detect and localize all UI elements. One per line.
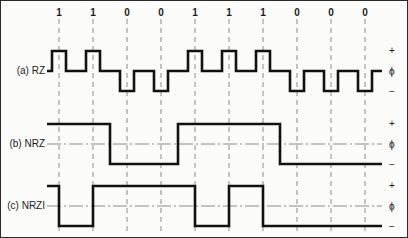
level-label-plus: +: [389, 118, 395, 129]
nrz-row: (b) NRZ + ϕ −: [9, 118, 395, 170]
row-label-nrz: (b) NRZ: [9, 138, 45, 149]
level-label-minus: −: [389, 86, 395, 97]
bit-label: 0: [158, 7, 164, 18]
level-label-minus: −: [389, 159, 395, 170]
bit-label: 0: [328, 7, 334, 18]
level-label-zero: ϕ: [389, 201, 395, 212]
bit-label: 0: [362, 7, 368, 18]
nrzi-row: (c) NRZI + ϕ −: [7, 180, 395, 232]
row-label-nrzi: (c) NRZI: [7, 200, 45, 211]
level-label-zero: ϕ: [389, 66, 395, 77]
bit-label: 1: [56, 7, 62, 18]
bit-gridlines: [59, 19, 365, 233]
level-label-plus: +: [389, 180, 395, 191]
rz-waveform: [47, 51, 382, 91]
bit-label: 1: [192, 7, 198, 18]
level-label-minus: −: [389, 221, 395, 232]
bit-label: 1: [90, 7, 96, 18]
bit-label: 0: [124, 7, 130, 18]
bit-label: 1: [260, 7, 266, 18]
bit-label: 0: [294, 7, 300, 18]
waveform-figure: 1 1 0 0 1 1 1 0 0 0 (a) RZ + ϕ − (b) NRZ…: [0, 0, 408, 238]
bit-label-row: 1 1 0 0 1 1 1 0 0 0: [56, 7, 368, 18]
rz-row: (a) RZ + ϕ −: [17, 45, 395, 97]
level-label-plus: +: [389, 45, 395, 56]
row-label-rz: (a) RZ: [17, 65, 45, 76]
bit-label: 1: [226, 7, 232, 18]
level-label-zero: ϕ: [389, 139, 395, 150]
waveform-canvas: 1 1 0 0 1 1 1 0 0 0 (a) RZ + ϕ − (b) NRZ…: [1, 1, 408, 238]
